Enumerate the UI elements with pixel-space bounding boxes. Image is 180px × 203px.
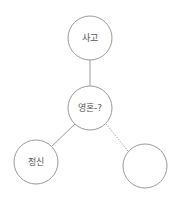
node-label: 정신 bbox=[28, 157, 44, 167]
node-soul: 영혼-? bbox=[68, 86, 112, 130]
node-empty bbox=[123, 144, 167, 188]
node-thought: 사고 bbox=[68, 16, 112, 60]
node-label: 사고 bbox=[82, 33, 98, 43]
edge-soul-mind bbox=[51, 124, 75, 147]
node-mind: 정신 bbox=[14, 140, 58, 184]
node-label: 영혼-? bbox=[78, 102, 102, 113]
concept-diagram: 사고 영혼-? 정신 bbox=[0, 0, 180, 203]
edge-soul-empty-dotted bbox=[106, 124, 128, 151]
